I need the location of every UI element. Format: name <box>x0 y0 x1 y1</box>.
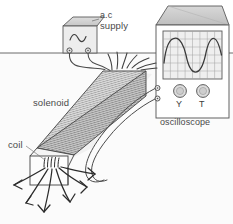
ac-supply-unit <box>63 17 104 53</box>
physics-diagram-svg <box>0 0 233 224</box>
ac-supply-top-face <box>63 17 104 26</box>
coil-label: coil <box>8 140 23 150</box>
timebase-knob-label: T <box>199 100 205 109</box>
ac-supply-label-line2: supply <box>100 21 128 31</box>
solenoid-label: solenoid <box>33 98 69 108</box>
y-gain-knob-label: Y <box>176 100 182 109</box>
oscilloscope-top-face <box>156 6 229 25</box>
diagram-canvas: a.c supply solenoid coil oscilloscope Y … <box>0 0 233 224</box>
oscilloscope-unit <box>155 6 229 118</box>
oscilloscope-label: oscilloscope <box>160 118 210 127</box>
ac-supply-label-line1: a.c <box>100 11 112 20</box>
